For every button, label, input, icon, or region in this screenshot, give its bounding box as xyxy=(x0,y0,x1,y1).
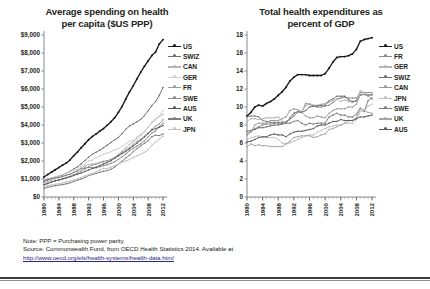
legend-label: JPN xyxy=(183,126,196,133)
legend-label: GER xyxy=(183,74,197,81)
legend-label: UK xyxy=(394,115,403,122)
svg-text:2000: 2000 xyxy=(322,202,329,216)
legend-item-us: US xyxy=(168,41,199,51)
footnote-source-url[interactable]: http://www.oecd.org/els/health-systems/h… xyxy=(23,254,353,262)
svg-text:2012: 2012 xyxy=(368,202,375,216)
legend-label: FR xyxy=(183,84,192,91)
legend-item-us: US xyxy=(379,41,410,51)
footnote-note: Note: PPP = Purchasing power parity. xyxy=(23,237,353,245)
svg-text:14: 14 xyxy=(236,67,244,74)
svg-text:1988: 1988 xyxy=(70,202,77,216)
svg-text:$0: $0 xyxy=(33,193,41,201)
legend-marker-icon xyxy=(168,115,181,122)
legend-marker-icon xyxy=(168,95,181,102)
svg-text:$2,000: $2,000 xyxy=(21,157,41,165)
legend-label: UK xyxy=(183,115,192,122)
legend-marker-icon xyxy=(379,84,392,91)
svg-text:$9,000: $9,000 xyxy=(21,31,41,39)
legend-marker-icon xyxy=(168,53,181,60)
legend-marker-icon xyxy=(379,126,392,133)
chart-panel-percent-of-gdp: Total health expenditures as percent of … xyxy=(212,0,430,236)
chart-title-percent-of-gdp: Total health expenditures as percent of … xyxy=(212,0,430,29)
legend-label: SWE xyxy=(394,105,409,112)
legend-item-fr: FR xyxy=(379,51,410,61)
svg-text:$1,000: $1,000 xyxy=(21,175,41,183)
bottom-divider-secondary xyxy=(0,280,430,281)
svg-text:1992: 1992 xyxy=(290,202,297,216)
legend-marker-icon xyxy=(379,74,392,81)
legend-label: FR xyxy=(394,53,403,60)
legend-label: SWIZ xyxy=(183,53,199,60)
legend-marker-icon xyxy=(379,95,392,102)
svg-text:1996: 1996 xyxy=(100,202,107,216)
legend-spending-per-capita: USSWIZCANGERFRSWEAUSUKJPN xyxy=(168,41,199,135)
legend-item-fr: FR xyxy=(168,83,199,93)
svg-text:2008: 2008 xyxy=(145,202,152,216)
legend-item-aus: AUS xyxy=(168,103,199,113)
svg-text:1996: 1996 xyxy=(306,202,313,216)
legend-item-swe: SWE xyxy=(168,93,199,103)
footnotes: Note: PPP = Purchasing power parity. Sou… xyxy=(23,237,353,262)
legend-marker-icon xyxy=(168,74,181,81)
legend-item-can: CAN xyxy=(379,83,410,93)
svg-text:$5,000: $5,000 xyxy=(21,103,41,111)
legend-label: SWIZ xyxy=(394,74,410,81)
legend-marker-icon xyxy=(379,63,392,70)
svg-text:1980: 1980 xyxy=(243,202,250,216)
legend-percent-of-gdp: USFRGERSWIZCANJPNSWEUKAUS xyxy=(379,41,410,135)
svg-text:$7,000: $7,000 xyxy=(21,67,41,75)
svg-text:2012: 2012 xyxy=(159,202,166,216)
legend-label: AUS xyxy=(394,126,408,133)
legend-item-swiz: SWIZ xyxy=(168,51,199,61)
svg-text:1984: 1984 xyxy=(259,202,266,216)
legend-label: JPN xyxy=(394,95,407,102)
legend-item-can: CAN xyxy=(168,62,199,72)
svg-text:2000: 2000 xyxy=(115,202,122,216)
svg-text:1984: 1984 xyxy=(55,202,62,216)
svg-text:2008: 2008 xyxy=(353,202,360,216)
svg-text:4: 4 xyxy=(239,157,243,164)
legend-label: CAN xyxy=(394,84,408,91)
legend-marker-icon xyxy=(379,115,392,122)
svg-text:$3,000: $3,000 xyxy=(21,139,41,147)
legend-label: US xyxy=(183,43,192,50)
svg-text:0: 0 xyxy=(239,193,243,200)
legend-label: US xyxy=(394,43,403,50)
svg-text:2: 2 xyxy=(239,175,243,182)
svg-text:8: 8 xyxy=(239,121,243,128)
svg-text:1988: 1988 xyxy=(275,202,282,216)
legend-marker-icon xyxy=(379,43,392,50)
legend-item-swiz: SWIZ xyxy=(379,72,410,82)
legend-item-uk: UK xyxy=(168,114,199,124)
svg-text:$8,000: $8,000 xyxy=(21,49,41,57)
legend-marker-icon xyxy=(379,53,392,60)
legend-item-ger: GER xyxy=(379,62,410,72)
svg-text:10: 10 xyxy=(236,103,244,110)
svg-text:18: 18 xyxy=(236,31,244,38)
legend-marker-icon xyxy=(168,43,181,50)
health-spending-figure: Average spending on health per capita ($… xyxy=(0,0,430,289)
legend-item-uk: UK xyxy=(379,114,410,124)
svg-text:12: 12 xyxy=(236,85,244,92)
legend-label: CAN xyxy=(183,63,197,70)
footnote-source: Source: Commonwealth Fund, from OECD Hea… xyxy=(23,245,353,253)
bottom-divider xyxy=(0,277,430,279)
legend-item-swe: SWE xyxy=(379,103,410,113)
chart-panel-spending-per-capita: Average spending on health per capita ($… xyxy=(0,0,214,236)
legend-item-jpn: JPN xyxy=(168,124,199,134)
legend-marker-icon xyxy=(168,84,181,91)
legend-marker-icon xyxy=(379,105,392,112)
svg-text:1992: 1992 xyxy=(85,202,92,216)
legend-label: GER xyxy=(394,63,408,70)
legend-item-ger: GER xyxy=(168,72,199,82)
legend-marker-icon xyxy=(168,126,181,133)
legend-marker-icon xyxy=(168,105,181,112)
chart-title-spending-per-capita: Average spending on health per capita ($… xyxy=(0,0,214,29)
legend-item-aus: AUS xyxy=(379,124,410,134)
legend-marker-icon xyxy=(168,63,181,70)
legend-label: AUS xyxy=(183,105,197,112)
svg-text:$4,000: $4,000 xyxy=(21,121,41,129)
svg-text:$6,000: $6,000 xyxy=(21,85,41,93)
svg-text:1980: 1980 xyxy=(40,202,47,216)
legend-item-jpn: JPN xyxy=(379,93,410,103)
